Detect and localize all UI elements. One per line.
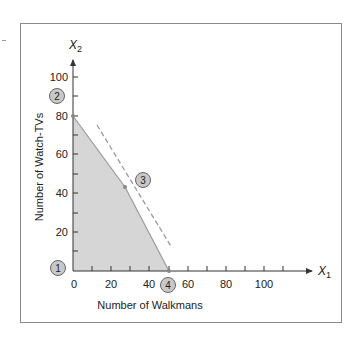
x-axis-title: Number of Walkmans: [97, 299, 203, 311]
x-tick-label: 20: [105, 278, 117, 290]
corner-dot: [167, 269, 171, 273]
corner-badge-2: 2: [50, 89, 65, 104]
corner-dot: [123, 185, 127, 189]
y-tick-label: 20: [56, 226, 68, 238]
svg-text:1: 1: [55, 263, 61, 274]
corner-badge-1: 1: [51, 261, 66, 276]
x-tick-label: 60: [182, 278, 194, 290]
y-tick-label: 60: [56, 148, 68, 160]
y-tick-label: 80: [56, 110, 68, 122]
y-axis-title: Number of Watch-TVs: [33, 112, 45, 221]
x-tick-label: 0: [71, 278, 77, 290]
x-axis-symbol: X1: [317, 264, 331, 280]
corner-dot: [71, 114, 75, 118]
feasible-region: [73, 116, 169, 271]
y-tick-label: 100: [50, 71, 68, 83]
svg-text:2: 2: [54, 91, 60, 102]
x-tick-label: 80: [220, 278, 232, 290]
svg-text:4: 4: [165, 280, 171, 291]
svg-text:3: 3: [140, 175, 146, 186]
x-tick-label: 100: [255, 278, 273, 290]
x-tick-label: 40: [143, 278, 155, 290]
chart-svg: 100 80 60 40 20 0 20 40 60 80 100 Number…: [0, 0, 358, 343]
y-axis-symbol: X2: [68, 38, 82, 54]
corner-badge-4: 4: [161, 278, 176, 293]
y-tick-label: 40: [56, 187, 68, 199]
corner-badge-3: 3: [136, 173, 151, 188]
